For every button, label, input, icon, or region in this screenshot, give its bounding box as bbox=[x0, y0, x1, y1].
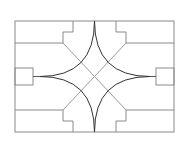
astroid-diagram bbox=[0, 0, 186, 141]
diagram-canvas bbox=[0, 0, 186, 141]
